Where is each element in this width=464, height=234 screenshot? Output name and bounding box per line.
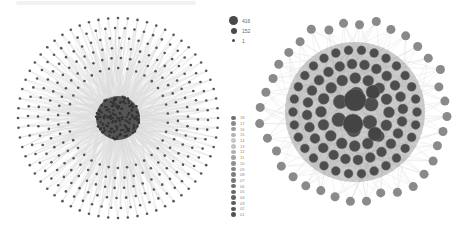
color-swatch-icon	[231, 178, 236, 183]
color-swatch-icon	[231, 133, 236, 138]
core-node	[111, 128, 113, 130]
graph-node	[331, 166, 340, 175]
graph-node	[365, 153, 375, 163]
color-legend-label: 03	[240, 201, 244, 206]
core-node	[125, 116, 127, 118]
core-node	[101, 131, 103, 133]
core-node	[124, 102, 126, 104]
graph-node	[104, 28, 107, 31]
graph-node	[309, 154, 318, 163]
hub-node	[343, 114, 363, 134]
graph-node	[216, 127, 219, 130]
graph-node	[39, 180, 42, 183]
graph-node	[28, 134, 31, 137]
graph-node	[61, 34, 64, 37]
graph-node	[155, 209, 158, 212]
graph-node	[161, 183, 164, 186]
core-node	[118, 112, 120, 114]
graph-node	[155, 24, 158, 27]
graph-node	[52, 70, 55, 73]
graph-node	[381, 120, 392, 131]
core-node	[99, 128, 101, 130]
core-node	[121, 96, 123, 98]
graph-node	[310, 134, 320, 144]
graph-node	[205, 70, 208, 73]
graph-node	[63, 162, 66, 165]
graph-node	[411, 120, 420, 129]
core-node	[109, 111, 111, 113]
graph-node	[107, 17, 110, 20]
graph-node	[164, 205, 167, 208]
graph-node	[143, 31, 146, 34]
graph-node	[176, 110, 179, 113]
graph-node	[392, 154, 401, 163]
graph-node	[141, 182, 144, 185]
graph-node	[172, 160, 175, 163]
graph-node	[212, 88, 215, 91]
graph-node	[154, 70, 157, 73]
graph-node	[138, 61, 141, 64]
graph-node	[371, 64, 381, 74]
graph-node	[166, 121, 169, 124]
graph-node	[156, 59, 159, 62]
graph-node	[41, 69, 44, 72]
color-legend-label: 18	[240, 115, 244, 120]
core-node	[124, 119, 126, 121]
graph-node	[166, 192, 169, 195]
core-node	[126, 134, 128, 136]
graph-node	[139, 204, 142, 207]
graph-node	[397, 117, 407, 127]
graph-node	[39, 134, 42, 137]
peripheral-node	[296, 37, 305, 46]
peripheral-node	[289, 172, 298, 181]
core-node	[123, 135, 125, 137]
core-node	[133, 126, 135, 128]
graph-node	[70, 29, 73, 32]
graph-node	[323, 67, 333, 77]
graph-node	[98, 163, 101, 166]
graph-node	[126, 166, 129, 169]
graph-node	[72, 50, 75, 53]
peripheral-node	[277, 162, 286, 171]
graph-node	[21, 88, 24, 91]
graph-node	[39, 161, 42, 164]
graph-node	[187, 173, 190, 176]
peripheral-node	[301, 181, 310, 190]
graph-node	[350, 73, 361, 84]
graph-node	[60, 47, 63, 50]
graph-node	[176, 79, 179, 82]
color-swatch-icon	[231, 184, 236, 189]
peripheral-node	[362, 197, 371, 206]
core-node	[115, 114, 117, 116]
peripheral-node	[331, 192, 340, 201]
graph-node	[205, 164, 208, 167]
core-node	[98, 110, 100, 112]
peripheral-node	[434, 82, 443, 91]
graph-node	[181, 180, 184, 183]
graph-node	[207, 119, 210, 122]
core-node	[127, 102, 129, 104]
graph-node	[117, 67, 120, 70]
graph-node	[45, 153, 48, 156]
graph-node	[331, 49, 340, 58]
color-swatch-icon	[231, 116, 236, 121]
graph-node	[191, 146, 194, 149]
graph-node	[180, 194, 183, 197]
graph-node	[37, 115, 40, 118]
graph-node	[177, 120, 180, 123]
graph-node	[203, 90, 206, 93]
graph-node	[39, 53, 42, 56]
size-dot-icon	[231, 28, 237, 34]
core-node	[114, 130, 116, 132]
graph-node	[169, 43, 172, 46]
graph-node	[27, 105, 30, 108]
graph-node	[401, 144, 410, 153]
core-node	[117, 118, 119, 120]
graph-node	[132, 175, 135, 178]
graph-node	[120, 207, 123, 210]
graph-node	[117, 17, 120, 20]
core-node	[114, 97, 116, 99]
core-node	[107, 122, 109, 124]
graph-node	[72, 139, 75, 142]
graph-node	[34, 61, 37, 64]
